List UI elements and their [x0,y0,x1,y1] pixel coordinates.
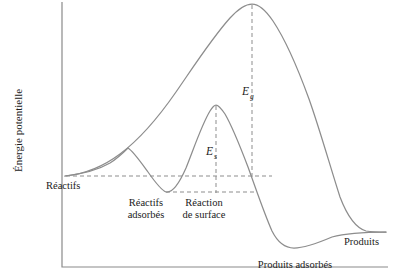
label-reactants: Réactifs [46,180,80,191]
y-axis-label: Énergie potentielle [12,89,24,172]
label-products: Produits [344,236,379,247]
label-surface-activation-energy: E s [205,145,217,161]
label-surface-reaction-line1: Réaction [185,197,223,208]
surface-catalysed-energy-curve [65,105,386,248]
figure-canvas: Énergie potentielle Réactifs Réactifs ad… [0,0,393,280]
label-adsorbed-reactants-line1: Réactifs [129,197,163,208]
label-surface-reaction-line2: de surface [183,209,226,220]
gas-energy-subscript: g [250,92,254,101]
label-adsorbed-reactants-line2: adsorbés [128,209,165,220]
label-gas-activation-energy: E g [241,85,254,101]
label-adsorbed-products: Produits adsorbés [258,259,332,270]
surface-energy-subscript: s [214,152,217,161]
gas-phase-energy-curve [65,4,386,232]
surface-energy-symbol: E [205,145,213,157]
gas-energy-symbol: E [241,85,249,97]
axis-frame [62,2,388,267]
